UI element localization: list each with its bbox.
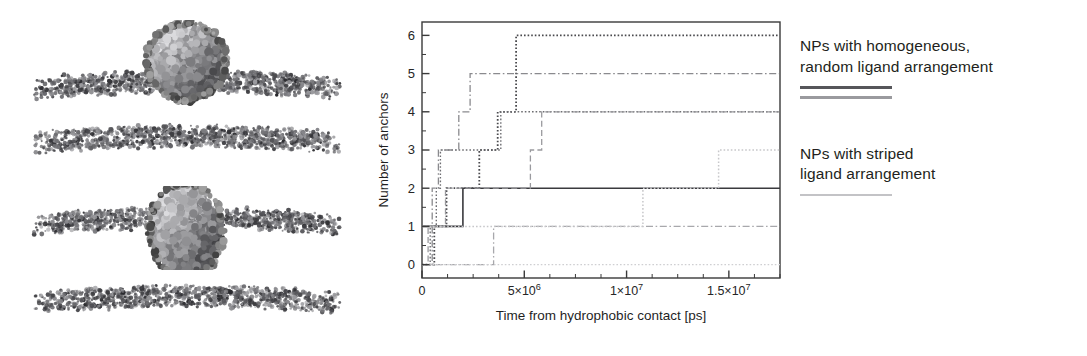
chart-legend: NPs with homogeneous, random ligand arra…	[800, 36, 1080, 203]
yaxis-tick-label: 2	[408, 181, 415, 196]
xaxis-tick-label: 5×106	[508, 282, 541, 298]
bilayer-render	[0, 186, 372, 270]
legend-striped-swatches	[800, 194, 1080, 197]
legend-striped-line-1: NPs with striped	[800, 144, 1080, 165]
xaxis-tick-label: 0	[419, 284, 426, 298]
xaxis-tick-label: 1.5×107	[707, 282, 751, 298]
nanoparticle	[142, 20, 230, 106]
yaxis-tick-label: 6	[408, 28, 415, 43]
series-homogeneous-run-6	[422, 226, 780, 264]
legend-entry-homogeneous: NPs with homogeneous, random ligand arra…	[800, 36, 1080, 99]
yaxis-tick-label: 4	[408, 104, 415, 119]
chart-svg: 05×1061×1071.5×1070123456Time from hydro…	[372, 0, 792, 356]
nanoparticle	[144, 186, 227, 270]
legend-homogeneous-line-2: random ligand arrangement	[800, 57, 1080, 78]
series-homogeneous-run-2	[422, 35, 779, 264]
xaxis-title: Time from hydrophobic contact [ps]	[496, 308, 706, 323]
legend-striped-line-2: ligand arrangement	[800, 164, 1080, 185]
yaxis-tick-label: 3	[408, 142, 415, 157]
legend-spacer	[800, 106, 1080, 144]
anchors-vs-time-chart: 05×1061×1071.5×1070123456Time from hydro…	[372, 0, 792, 356]
legend-homogeneous-swatches	[800, 86, 1080, 99]
yaxis-tick-label: 5	[408, 66, 415, 81]
legend-entry-striped: NPs with striped ligand arrangement	[800, 144, 1080, 197]
legend-swatch-dark	[800, 86, 892, 89]
snapshot-3	[0, 186, 372, 270]
bilayer-render	[0, 20, 372, 115]
legend-swatch-light	[800, 194, 892, 197]
plot-frame	[422, 22, 780, 278]
snapshot-2	[0, 112, 372, 174]
snapshot-4	[0, 268, 372, 338]
legend-homogeneous-line-1: NPs with homogeneous,	[800, 36, 1080, 57]
yaxis-tick-label: 0	[408, 257, 415, 272]
md-simulation-snapshots	[0, 0, 372, 356]
series-homogeneous-run-4	[422, 74, 779, 265]
yaxis-tick-label: 1	[408, 219, 415, 234]
series-homogeneous-run-1	[422, 188, 780, 226]
yaxis-title: Number of anchors	[376, 92, 391, 207]
snapshot-1	[0, 20, 372, 115]
bilayer-render	[0, 112, 372, 174]
legend-swatch-mid	[800, 96, 892, 99]
bilayer-render	[0, 268, 372, 338]
xaxis-tick-label: 1×107	[610, 282, 643, 298]
